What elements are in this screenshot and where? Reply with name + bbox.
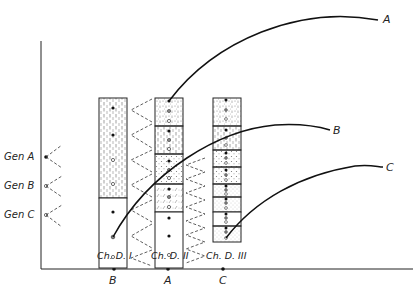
column-ch-d-i: [99, 98, 127, 268]
column-label-ii: Ch. D. II: [151, 250, 189, 261]
diagram-canvas: A B C Gen A Gen B Gen C Ch. D. I Ch. D. …: [0, 0, 420, 291]
zigzag-connectors-1: [131, 99, 152, 266]
column-ch-d-iii: [213, 98, 241, 242]
gene-label-a: Gen A: [4, 151, 34, 162]
axis-point-c: [221, 267, 225, 271]
axis-letter-b: B: [109, 274, 117, 287]
curve-c: [226, 165, 383, 238]
curve-label-b: B: [333, 124, 341, 137]
lineage-curves: [113, 17, 383, 238]
curve-label-a: A: [382, 13, 391, 26]
axis-letter-a: A: [163, 274, 172, 287]
gene-label-c: Gen C: [4, 209, 34, 220]
column-label-iii: Ch. D. III: [206, 250, 247, 261]
axis-letter-c: C: [219, 274, 227, 287]
zigzag-connectors-2: [186, 158, 205, 263]
column-label-i: Ch. D. I: [97, 250, 132, 261]
curve-label-c: C: [386, 161, 394, 174]
gene-markers: [44, 145, 62, 227]
gene-label-b: Gen B: [4, 180, 34, 191]
curve-a: [169, 17, 378, 101]
column-ch-d-ii: [155, 98, 183, 268]
